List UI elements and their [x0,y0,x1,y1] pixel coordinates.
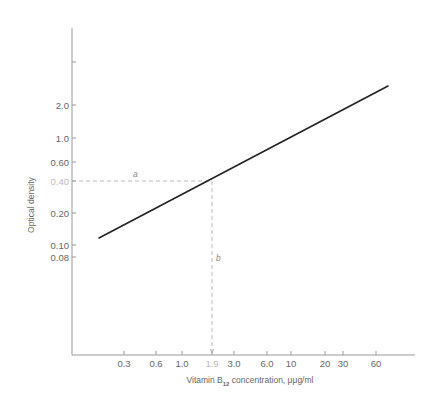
x-tick-label: 30 [338,358,349,369]
x-axis-title-suffix: concentration, μμg/ml [229,375,313,385]
x-tick-label: 3.0 [227,358,240,369]
y-tick-label: 1.0 [56,133,69,144]
y-tick-label: 0.20 [51,208,70,219]
series [99,86,388,238]
x-axis-title-prefix: Vitamin B [187,375,224,385]
x-tick-label: 60 [371,358,382,369]
y-tick-label: 2.0 [56,100,69,111]
x-tick-label: 6.0 [260,358,273,369]
x-ticks: 0.30.61.01.93.06.010203060 [117,351,381,369]
x-tick-label: 20 [320,358,331,369]
annotations: ab [72,169,221,353]
annotation-label-a: a [133,169,138,179]
chart: 0.30.61.01.93.06.010203060 2.01.00.600.4… [0,0,434,405]
x-tick-label: 1.9 [205,358,218,369]
y-tick-label: 0.08 [51,252,70,263]
x-axis-title: Vitamin B12 concentration, μμg/ml [187,375,314,387]
y-tick-label: 0.60 [51,157,70,168]
y-tick-label: 0.10 [51,240,70,251]
annotation-label-b: b [216,253,221,263]
series-line [99,86,388,238]
x-tick-label: 1.0 [175,358,188,369]
x-tick-label: 10 [286,358,297,369]
y-axis-title: Optical density [26,176,36,232]
x-tick-label: 0.3 [117,358,130,369]
axes [72,28,415,355]
y-tick-label: 0.40 [51,176,70,187]
x-tick-label: 0.6 [149,358,162,369]
